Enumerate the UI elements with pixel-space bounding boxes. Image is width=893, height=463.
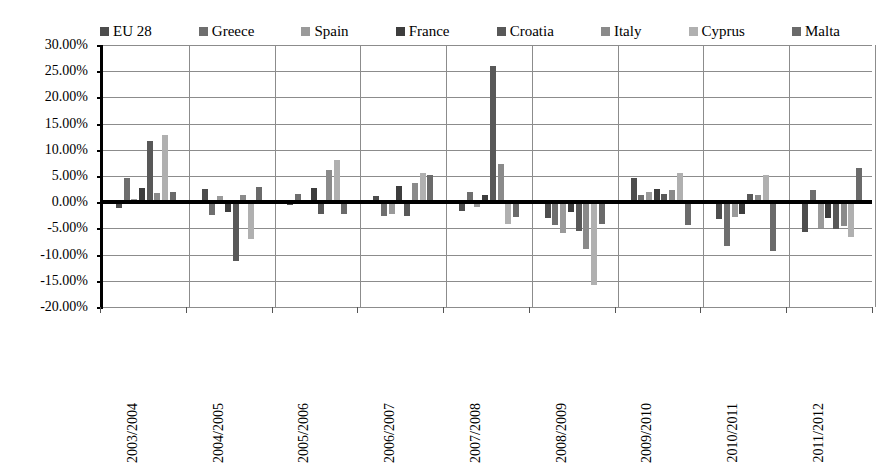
- bar-cyprus-2010-2011[interactable]: [763, 175, 769, 202]
- legend-item-label: Spain: [314, 24, 348, 39]
- legend-swatch-icon: [396, 27, 405, 36]
- bar-croatia-2008-2009[interactable]: [576, 202, 582, 231]
- bar-spain-2008-2009[interactable]: [560, 202, 566, 232]
- bar-greece-2010-2011[interactable]: [724, 202, 730, 246]
- x-tick-mark: [615, 307, 616, 313]
- legend-swatch-icon: [301, 27, 310, 36]
- bars-layer: [103, 45, 872, 307]
- y-tick-label: 10.00%: [45, 143, 88, 157]
- bar-malta-2009-2010[interactable]: [685, 202, 691, 225]
- x-tick-mark: [272, 307, 273, 313]
- bar-croatia-2004-2005[interactable]: [233, 202, 239, 261]
- legend-swatch-icon: [497, 27, 506, 36]
- legend-item-label: Croatia: [510, 24, 554, 39]
- bar-greece-2006-2007[interactable]: [381, 202, 387, 216]
- bar-malta-2006-2007[interactable]: [427, 175, 433, 202]
- bar-spain-2011-2012[interactable]: [818, 202, 824, 228]
- x-tick-mark: [186, 307, 187, 313]
- bar-cyprus-2006-2007[interactable]: [420, 173, 426, 202]
- x-tick-mark: [872, 307, 873, 313]
- bar-cyprus-2004-2005[interactable]: [248, 202, 254, 239]
- x-tick-label: 2009/2010: [640, 403, 654, 463]
- bar-italy-2007-2008[interactable]: [498, 164, 504, 202]
- plot-wrapper: 30.00%25.00%20.00%15.00%10.00%5.00%0.00%…: [0, 45, 893, 307]
- bar-italy-2005-2006[interactable]: [326, 170, 332, 202]
- legend-swatch-icon: [601, 27, 610, 36]
- x-tick-label: 2010/2011: [726, 403, 740, 462]
- bar-cyprus-2007-2008[interactable]: [505, 202, 511, 224]
- bar-croatia-2011-2012[interactable]: [833, 202, 839, 229]
- y-tick-label: -20.00%: [40, 300, 88, 314]
- bar-cyprus-2003-2004[interactable]: [162, 135, 168, 202]
- x-tick-mark: [700, 307, 701, 313]
- y-tick-label: -15.00%: [40, 274, 88, 288]
- vertical-gridline: [875, 45, 876, 307]
- bar-cyprus-2009-2010[interactable]: [677, 173, 683, 202]
- y-tick-label: 0.00%: [52, 195, 88, 209]
- bar-eu-28-2009-2010[interactable]: [631, 178, 637, 202]
- x-tick-mark: [357, 307, 358, 313]
- y-axis: 30.00%25.00%20.00%15.00%10.00%5.00%0.00%…: [0, 45, 96, 307]
- bar-malta-2008-2009[interactable]: [599, 202, 605, 223]
- x-tick-label: 2007/2008: [469, 403, 483, 463]
- bar-malta-2007-2008[interactable]: [513, 202, 519, 217]
- legend-item-label: France: [409, 24, 450, 39]
- legend-item-label: EU 28: [113, 24, 152, 39]
- plot-area: [100, 45, 872, 307]
- x-tick-label: 2008/2009: [555, 403, 569, 463]
- bar-croatia-2003-2004[interactable]: [147, 141, 153, 202]
- legend-item-label: Cyprus: [702, 24, 745, 39]
- y-tick-label: 25.00%: [45, 64, 88, 78]
- legend-item-label: Malta: [805, 24, 840, 39]
- zero-baseline: [103, 200, 872, 204]
- bar-cyprus-2011-2012[interactable]: [848, 202, 854, 237]
- x-tick-label: 2006/2007: [383, 403, 397, 463]
- x-tick-label: 2004/2005: [212, 403, 226, 463]
- legend-item-malta[interactable]: Malta: [792, 24, 840, 39]
- x-axis: 2003/20042004/20052005/20062006/20072007…: [100, 307, 872, 415]
- legend-item-cyprus[interactable]: Cyprus: [689, 24, 745, 39]
- bar-malta-2010-2011[interactable]: [770, 202, 776, 251]
- y-tick-label: 15.00%: [45, 117, 88, 131]
- x-tick-mark: [100, 307, 101, 313]
- bar-greece-2008-2009[interactable]: [552, 202, 558, 225]
- legend-swatch-icon: [100, 27, 109, 36]
- bar-france-2011-2012[interactable]: [825, 202, 831, 218]
- bar-eu-28-2011-2012[interactable]: [802, 202, 808, 231]
- x-tick-label: 2011/2012: [812, 403, 826, 462]
- bar-spain-2010-2011[interactable]: [732, 202, 738, 217]
- x-tick-mark: [786, 307, 787, 313]
- y-tick-label: -5.00%: [47, 221, 88, 235]
- y-tick-label: 30.00%: [45, 38, 88, 52]
- bar-cyprus-2005-2006[interactable]: [334, 160, 340, 202]
- bar-cyprus-2008-2009[interactable]: [591, 202, 597, 285]
- bar-eu-28-2010-2011[interactable]: [716, 202, 722, 219]
- x-tick-label: 2003/2004: [126, 403, 140, 463]
- bar-malta-2011-2012[interactable]: [856, 168, 862, 203]
- y-tick-label: -10.00%: [40, 248, 88, 262]
- legend-item-italy[interactable]: Italy: [601, 24, 642, 39]
- legend-item-eu-28[interactable]: EU 28: [100, 24, 152, 39]
- x-tick-label: 2005/2006: [297, 403, 311, 463]
- bar-eu-28-2008-2009[interactable]: [545, 202, 551, 218]
- bar-italy-2011-2012[interactable]: [841, 202, 847, 226]
- legend-swatch-icon: [792, 27, 801, 36]
- legend-item-greece[interactable]: Greece: [199, 24, 254, 39]
- legend-item-label: Italy: [614, 24, 642, 39]
- legend-item-croatia[interactable]: Croatia: [497, 24, 554, 39]
- bar-croatia-2006-2007[interactable]: [404, 202, 410, 216]
- chart-legend: EU 28GreeceSpainFranceCroatiaItalyCyprus…: [100, 20, 840, 42]
- legend-swatch-icon: [689, 27, 698, 36]
- bar-italy-2008-2009[interactable]: [583, 202, 589, 249]
- bar-greece-2003-2004[interactable]: [124, 178, 130, 202]
- bar-croatia-2007-2008[interactable]: [490, 66, 496, 202]
- legend-item-france[interactable]: France: [396, 24, 450, 39]
- y-tick-label: 5.00%: [52, 169, 88, 183]
- y-tick-label: 20.00%: [45, 90, 88, 104]
- legend-swatch-icon: [199, 27, 208, 36]
- x-tick-mark: [443, 307, 444, 313]
- x-tick-mark: [529, 307, 530, 313]
- legend-item-label: Greece: [212, 24, 254, 39]
- legend-item-spain[interactable]: Spain: [301, 24, 348, 39]
